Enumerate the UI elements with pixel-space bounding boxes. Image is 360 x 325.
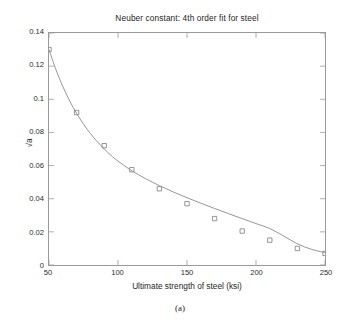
x-tick-label: 50 (44, 269, 52, 277)
x-tick-label: 150 (181, 269, 194, 277)
x-tick-label: 200 (250, 269, 263, 277)
y-tick-label: 0.06 (29, 162, 44, 170)
x-axis-title: Ultimate strength of steel (ksi) (48, 281, 326, 291)
x-tick-label: 250 (320, 269, 333, 277)
chart-title: Neuber constant: 4th order fit for steel (48, 13, 326, 23)
data-point-marker (295, 246, 299, 250)
data-point-marker (185, 202, 189, 206)
tick-marks (49, 33, 325, 265)
y-tick-label: 0.02 (29, 229, 44, 237)
x-tick-label: 100 (111, 269, 124, 277)
figure-caption: (a) (0, 303, 360, 314)
y-tick-label: 0.1 (33, 95, 44, 103)
data-point-marker (212, 216, 216, 220)
y-axis-title: √a (24, 126, 34, 160)
data-point-marker (268, 238, 272, 242)
data-point-marker (157, 187, 161, 191)
data-point-marker (240, 229, 244, 233)
y-tick-label: 0.14 (29, 28, 44, 36)
x-axis-tick-labels: 50100150200250 (48, 269, 326, 280)
plot-area (48, 32, 326, 266)
y-tick-label: 0.12 (29, 61, 44, 69)
figure-panel: Neuber constant: 4th order fit for steel… (0, 0, 360, 325)
plot-canvas (49, 33, 325, 265)
y-tick-label: 0.04 (29, 195, 44, 203)
data-point-markers (49, 47, 325, 255)
fit-curve-line (49, 50, 325, 253)
